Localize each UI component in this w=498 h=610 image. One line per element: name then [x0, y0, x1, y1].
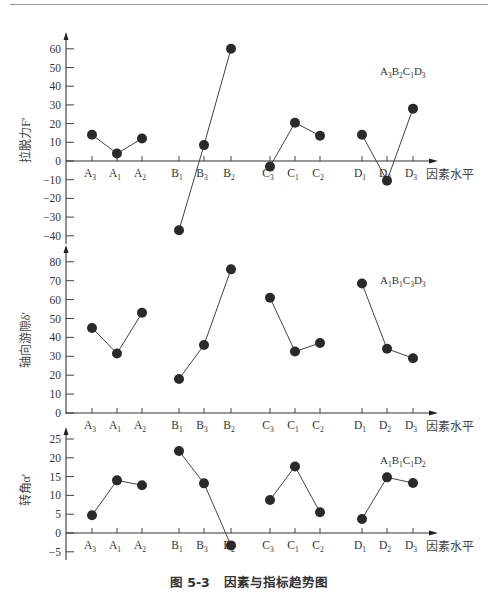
x-tick-label: B3 [196, 539, 208, 554]
y-tick-label: 20 [50, 118, 62, 130]
data-point-marker [199, 340, 209, 350]
y-tick-label: 0 [55, 527, 61, 539]
y-tick-label: 50 [50, 62, 62, 74]
x-axis-label: 因素水平 [426, 540, 474, 554]
data-point-marker [408, 104, 418, 114]
x-tick-label: D2 [379, 539, 391, 554]
y-tick-label: 60 [50, 43, 62, 55]
data-point-marker [408, 353, 418, 363]
series-line-D [362, 477, 413, 519]
y-axis-arrow-icon [64, 245, 69, 253]
data-point-marker [199, 140, 209, 150]
data-point-marker [315, 338, 325, 348]
x-tick-label: B1 [171, 419, 183, 434]
y-tick-label: 10 [50, 388, 62, 400]
x-tick-label: A1 [109, 539, 121, 554]
x-tick-label: C2 [312, 167, 324, 182]
data-point-marker [290, 118, 300, 128]
x-axis-arrow-icon [429, 411, 438, 416]
y-axis-label: 拉脱力F′ [18, 117, 33, 163]
y-tick-label: −20 [43, 192, 61, 204]
series-line-B [179, 269, 231, 379]
data-point-marker [87, 130, 97, 140]
x-tick-label: C2 [312, 539, 324, 554]
data-point-marker [265, 162, 275, 172]
data-point-marker [265, 293, 275, 303]
y-tick-label: 15 [50, 471, 62, 483]
x-tick-label: B1 [171, 167, 183, 182]
data-point-marker [290, 461, 300, 471]
data-point-marker [382, 344, 392, 354]
x-tick-label: D1 [354, 167, 366, 182]
y-axis-label: 转角α′ [18, 473, 33, 506]
y-tick-label: 25 [50, 433, 62, 445]
x-tick-label: A3 [84, 539, 96, 554]
x-tick-label: A3 [84, 419, 96, 434]
y-tick-label: 80 [50, 256, 62, 268]
x-tick-label: D3 [405, 167, 417, 182]
x-axis-label: 因素水平 [426, 420, 474, 434]
y-tick-label: −30 [43, 211, 61, 223]
data-point-marker [357, 514, 367, 524]
y-tick-label: 0 [55, 407, 61, 419]
x-tick-label: A1 [109, 419, 121, 434]
y-tick-label: 10 [50, 136, 62, 148]
y-axis-arrow-icon [64, 32, 69, 40]
x-tick-label: A2 [134, 419, 146, 434]
data-point-marker [382, 472, 392, 482]
data-point-marker [87, 323, 97, 333]
x-axis-arrow-icon [429, 159, 438, 164]
y-tick-label: −5 [49, 546, 61, 558]
chart-panel-3: 2520151050−5A3A1A2B1B3B2C3C1C2D1D2D3因素水平… [18, 427, 474, 560]
y-axis-arrow-icon [64, 427, 69, 435]
y-tick-label: 70 [50, 275, 62, 287]
x-tick-label: D3 [405, 539, 417, 554]
data-point-marker [174, 225, 184, 235]
data-point-marker [315, 131, 325, 141]
x-tick-label: A3 [84, 167, 96, 182]
y-tick-label: 20 [50, 452, 62, 464]
y-tick-label: 30 [50, 350, 62, 362]
y-tick-label: 60 [50, 294, 62, 306]
series-line-A [92, 480, 142, 515]
x-tick-label: D3 [405, 419, 417, 434]
data-point-marker [174, 446, 184, 456]
x-tick-label: B2 [223, 167, 235, 182]
y-tick-label: 40 [50, 80, 62, 92]
x-tick-label: B2 [223, 419, 235, 434]
optimal-combination-label: A3B2C1D3 [380, 65, 426, 80]
series-line-A [92, 313, 142, 354]
chart-panel-1: 6050403020100−10−20−30−40A3A1A2B1B3B2C3C… [18, 32, 474, 244]
optimal-combination-label: A1B1C1D2 [380, 454, 426, 469]
x-tick-label: C3 [262, 539, 274, 554]
x-tick-label: D2 [379, 419, 391, 434]
data-point-marker [290, 347, 300, 357]
factor-trend-charts: 6050403020100−10−20−30−40A3A1A2B1B3B2C3C… [0, 0, 498, 610]
data-point-marker [226, 540, 236, 550]
y-tick-label: 0 [55, 155, 61, 167]
x-tick-label: B1 [171, 539, 183, 554]
data-point-marker [408, 478, 418, 488]
figure-title: 因素与指标趋势图 [224, 575, 328, 590]
x-tick-label: A1 [109, 167, 121, 182]
data-point-marker [199, 478, 209, 488]
x-axis-label: 因素水平 [426, 168, 474, 182]
x-axis-arrow-icon [429, 531, 438, 536]
x-tick-label: C3 [262, 419, 274, 434]
x-tick-label: C1 [287, 419, 299, 434]
series-line-B [179, 451, 231, 545]
data-point-marker [112, 475, 122, 485]
data-point-marker [137, 480, 147, 490]
data-point-marker [226, 264, 236, 274]
y-tick-label: −10 [43, 174, 61, 186]
x-tick-label: D1 [354, 419, 366, 434]
x-tick-label: B3 [196, 419, 208, 434]
x-tick-label: D1 [354, 539, 366, 554]
data-point-marker [137, 308, 147, 318]
series-line-C [270, 466, 320, 512]
x-tick-label: B3 [196, 167, 208, 182]
series-line-B [179, 49, 231, 230]
data-point-marker [112, 149, 122, 159]
data-point-marker [265, 495, 275, 505]
chart-panel-2: 80706050403020100A3A1A2B1B3B2C3C1C2D1D2D… [18, 245, 474, 434]
